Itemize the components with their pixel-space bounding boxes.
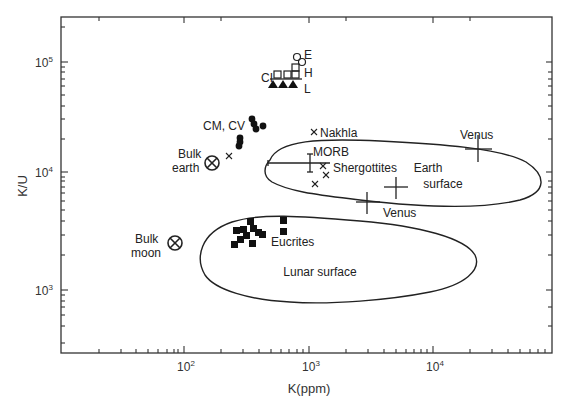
label-bulk-moon-1: Bulk: [135, 232, 159, 246]
y-axis-title: K/U: [15, 175, 30, 197]
x-tick-label-1e4: 104: [426, 359, 444, 374]
label-lunar-surface: Lunar surface: [283, 265, 357, 279]
earth-surface-region: [265, 140, 541, 207]
label-CI: CI: [261, 71, 273, 85]
bulk-earth-marker: [205, 156, 219, 170]
y-axis-ticks: [61, 27, 68, 343]
x-axis-ticks: [99, 346, 545, 353]
x-axis-ticks-top: [99, 17, 470, 23]
label-bulk-earth-2: earth: [172, 161, 199, 175]
x-tick-label-1e2: 102: [177, 359, 195, 374]
label-earth-surface-2: surface: [423, 177, 463, 191]
y-axis-ticks-right: [546, 62, 552, 326]
label-cm-cv: CM, CV: [203, 119, 245, 133]
label-morb: MORB: [313, 145, 349, 159]
label-E: E: [304, 48, 312, 62]
x-axis-title: K(ppm): [288, 381, 331, 396]
label-earth-surface-1: Earth: [414, 161, 443, 175]
x-tick-label-1e3: 103: [302, 359, 320, 374]
y-tick-label-1e3: 103: [35, 283, 53, 298]
label-bulk-earth-1: Bulk: [178, 147, 202, 161]
series-H-CI: [274, 64, 299, 78]
label-eucrites: Eucrites: [271, 235, 314, 249]
label-bulk-moon-2: moon: [131, 246, 161, 260]
label-venus-1: Venus: [460, 128, 493, 142]
bulk-moon-marker: [168, 236, 182, 250]
label-venus-2: Venus: [383, 206, 416, 220]
label-H: H: [304, 66, 313, 80]
label-shergottites: Shergottites: [333, 161, 397, 175]
label-nakhla: Nakhla: [320, 126, 358, 140]
y-tick-label-1e4: 104: [35, 165, 53, 180]
y-tick-label-1e5: 105: [35, 55, 53, 70]
chart: 105 104 103 102 103 104 K(ppm) K/U: [0, 0, 568, 410]
label-L: L: [304, 82, 311, 96]
